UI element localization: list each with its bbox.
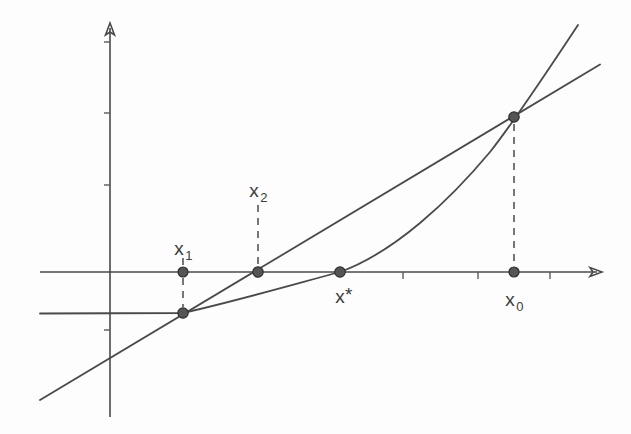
label-x2-sub: 2 xyxy=(260,190,268,205)
label-x1: x1 xyxy=(174,238,191,260)
label-x1-sub: 1 xyxy=(185,248,193,263)
label-x2-base: x xyxy=(249,180,259,201)
marker-x1-on-curve xyxy=(178,308,188,318)
marker-xstar-on-axis xyxy=(335,267,345,277)
marker-x1-on-axis xyxy=(178,267,188,277)
function-curve xyxy=(40,25,578,314)
marker-x2-on-axis xyxy=(253,267,263,277)
secant-method-figure: x1 x2 x* x0 xyxy=(0,0,631,434)
label-xstar-sub: * xyxy=(345,284,353,305)
label-x0-sub: 0 xyxy=(516,299,524,314)
marker-x0-on-axis xyxy=(509,267,519,277)
marker-x0-on-curve xyxy=(509,112,519,122)
label-x0-base: x xyxy=(505,289,515,310)
label-x0: x0 xyxy=(505,289,522,311)
label-x1-base: x xyxy=(174,238,184,259)
figure-canvas xyxy=(0,0,631,434)
label-xstar-base: x xyxy=(335,286,345,307)
label-xstar: x* xyxy=(335,286,353,308)
label-x2: x2 xyxy=(249,180,266,202)
